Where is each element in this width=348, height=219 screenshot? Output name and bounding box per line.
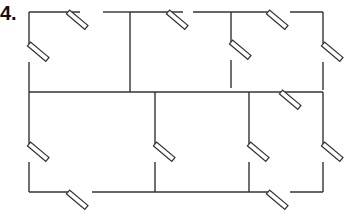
doors: [27, 10, 343, 209]
door-icon: [66, 190, 88, 209]
door-icon: [166, 10, 188, 29]
door-icon: [266, 190, 288, 209]
floor-plan-diagram: [0, 0, 348, 219]
door-icon: [321, 142, 343, 161]
door-icon: [66, 10, 88, 29]
door-icon: [247, 142, 269, 161]
walls: [29, 12, 323, 192]
door-icon: [321, 42, 343, 61]
door-icon: [229, 40, 251, 59]
door-icon: [153, 142, 175, 161]
door-icon: [279, 90, 301, 109]
door-icon: [266, 10, 288, 29]
door-icon: [27, 142, 49, 161]
door-icon: [27, 42, 49, 61]
